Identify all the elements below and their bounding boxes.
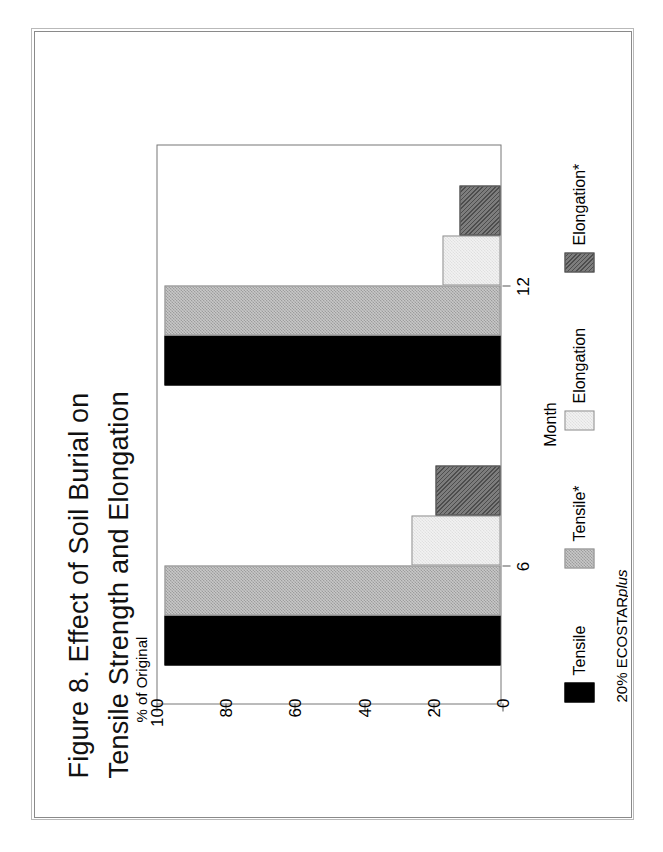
legend-item-elongation-star: Elongation* [564,163,594,272]
y-tick-label-40: 40 [356,698,373,758]
bar-tensile-6 [164,615,500,665]
legend-item-tensile-star: Tensile* [564,485,594,568]
figure-title: Figure 8. Effect of Soil Burial on Tensi… [58,78,138,778]
figure-canvas: Figure 8. Effect of Soil Burial on Tensi… [36,33,628,814]
chart-legend: Tensile Tensile* Elongation Elongation* [564,142,604,702]
y-axis-label: % of Original [132,636,149,722]
legend-swatch-tensile-icon [564,682,594,702]
x-tick-12 [502,285,510,286]
y-tick-label-80: 80 [217,698,234,758]
x-tick-6 [502,565,510,566]
legend-item-elongation: Elongation [564,327,594,430]
footnote-composition-brand: plus [612,569,628,597]
legend-label-tensile-star: Tensile* [571,485,587,541]
bar-tensile-star-6 [164,565,500,615]
x-axis-label: Month [541,144,559,704]
bar-tensile-12 [164,335,500,385]
figure-footnotes: 20% ECOSTARplus * soil exposed to sunlig… [611,536,628,702]
bar-elongation-6 [411,515,500,565]
y-tick-label-20: 20 [425,698,442,758]
legend-swatch-tensile-star-icon [564,548,594,568]
figure-stage: Figure 8. Effect of Soil Burial on Tensi… [36,33,628,814]
x-tick-label-12: 12 [514,266,531,306]
x-tick-label-6: 6 [514,546,531,586]
legend-swatch-elongation-star-icon [564,252,594,272]
footnote-composition: 20% ECOSTARplus [611,536,628,702]
legend-label-tensile: Tensile [571,625,587,675]
bar-elongation-star-6 [435,465,500,515]
bar-tensile-star-12 [164,285,500,335]
legend-label-elongation: Elongation [571,327,587,403]
bar-elongation-star-12 [459,185,500,235]
legend-item-tensile: Tensile [564,625,594,702]
footnote-composition-prefix: 20% ECOSTAR [612,596,628,702]
y-tick-label-100: 100 [148,698,165,758]
legend-label-elongation-star: Elongation* [571,163,587,245]
y-tick-label-60: 60 [286,698,303,758]
figure-page: Figure 8. Effect of Soil Burial on Tensi… [0,0,663,852]
y-tick-label-0: 0 [494,698,511,758]
plot-area [156,144,501,704]
figure-title-line1: Figure 8. Effect of Soil Burial on [63,392,93,778]
legend-swatch-elongation-icon [564,410,594,430]
bar-elongation-12 [442,235,500,285]
